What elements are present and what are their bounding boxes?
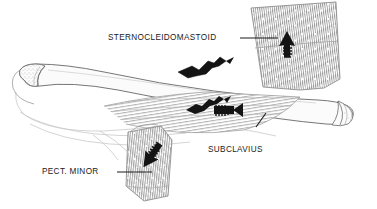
label-subclavius: SUBCLAVIUS [208, 145, 263, 154]
label-pect-minor: PECT. MINOR [42, 167, 99, 176]
anatomy-figure: STERNOCLEIDOMASTOID SUBCLAVIUS PECT. MIN… [0, 0, 377, 209]
anatomy-illustration: STERNOCLEIDOMASTOID SUBCLAVIUS PECT. MIN… [0, 0, 377, 209]
label-sternocleidomastoid: STERNOCLEIDOMASTOID [108, 33, 216, 42]
